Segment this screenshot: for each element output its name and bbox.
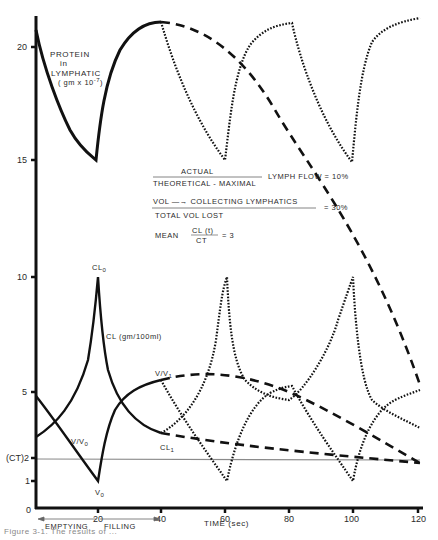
- protein-dotted-cycles: [161, 18, 420, 162]
- mean-numerator: CL (t): [192, 226, 213, 235]
- y-tick-5: 5: [22, 387, 27, 397]
- ct-reference-line: [36, 459, 420, 460]
- protein-label-l1: PROTEIN: [50, 50, 90, 59]
- x-tick-120: 120: [411, 514, 426, 524]
- fraction1-tail: LYMPH FLOW = 10%: [268, 172, 349, 181]
- fraction1-denominator: THEORETICAL - MAXIMAL: [153, 179, 256, 188]
- cl0-label: CL0: [92, 263, 107, 273]
- v-over-v1-dotted-cycles: [161, 380, 420, 481]
- y-tick-20: 20: [17, 42, 27, 52]
- mean-tail: = 3: [222, 231, 234, 240]
- cl-solid-curve: [36, 277, 161, 437]
- mean-denominator: CT: [196, 236, 207, 245]
- fraction1-numerator: ACTUAL: [181, 167, 214, 176]
- protein-label-l2: in: [60, 59, 67, 68]
- x-tick-100: 100: [344, 514, 359, 524]
- cl1-dashed-envelope: [161, 433, 420, 463]
- cl1-label: CL1: [160, 443, 175, 453]
- protein-solid-curve: [36, 22, 161, 160]
- fraction2-denominator: TOTAL VOL LOST: [155, 211, 224, 220]
- lymph-chart: 20 15 10 5 (CT)2 1 0 20 40 60 80 100 120…: [0, 0, 438, 540]
- v0-label: V0: [95, 488, 105, 498]
- v-over-v1-dashed-envelope: [161, 374, 420, 463]
- y-tick-10: 10: [17, 272, 27, 282]
- x-tick-80: 80: [284, 514, 294, 524]
- mean-prefix: MEAN: [155, 231, 179, 240]
- origin-0: 0: [26, 505, 31, 515]
- y-tick-15: 15: [17, 155, 27, 165]
- fraction2-tail: = 30%: [324, 203, 348, 212]
- cl-dotted-cycles: [161, 277, 420, 433]
- protein-label-l4: ( gm x 10-7): [58, 77, 103, 87]
- y-tick-ct2: (CT)2: [6, 453, 29, 463]
- v-over-v0-solid-curve: [36, 380, 161, 481]
- y-tick-1: 1: [25, 476, 30, 486]
- v-over-v0-label: V/V0: [71, 437, 89, 447]
- figure-caption: Figure 3-1. The results of ...: [4, 527, 117, 536]
- x-axis-title: TIME (sec): [204, 519, 249, 528]
- v-over-v1-label: V/V1: [155, 369, 173, 379]
- fraction2-numerator: VOL —→ COLLECTING LYMPHATICS: [153, 197, 298, 206]
- cl-units-label: CL (gm/100ml): [106, 332, 162, 341]
